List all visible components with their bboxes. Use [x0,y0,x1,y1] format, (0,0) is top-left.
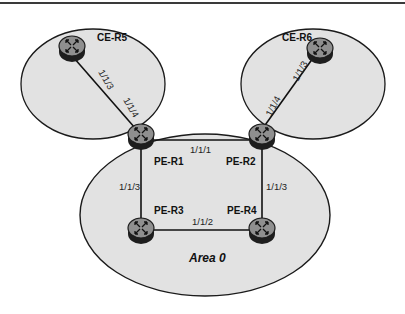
area-0-label: Area 0 [188,251,226,265]
network-diagram: CE-R5 CE-R6 PE-R1 PE-R2 PE-R3 PE-R4 1/1/… [0,0,405,314]
router-icon-pe-r3 [128,218,154,244]
label-ce-r5: CE-R5 [97,32,127,43]
router-icon-pe-r4 [249,218,275,244]
port-pe-r2-pe-r4: 1/1/3 [266,181,287,192]
label-pe-r2: PE-R2 [226,156,256,167]
router-icon-pe-r2 [249,124,275,150]
topology-svg: CE-R5 CE-R6 PE-R1 PE-R2 PE-R3 PE-R4 1/1/… [0,0,405,314]
label-pe-r3: PE-R3 [154,205,184,216]
router-icon-ce-r5 [59,36,85,62]
label-pe-r4: PE-R4 [227,205,257,216]
label-ce-r6: CE-R6 [282,32,312,43]
router-icon-pe-r1 [128,124,154,150]
port-pe-r3-pe-r4: 1/1/2 [192,216,213,227]
port-pe-r1-pe-r2: 1/1/1 [190,144,211,155]
ce-r5-area [21,29,165,139]
label-pe-r1: PE-R1 [154,156,184,167]
area-0 [80,134,330,296]
port-pe-r1-pe-r3: 1/1/3 [119,181,140,192]
